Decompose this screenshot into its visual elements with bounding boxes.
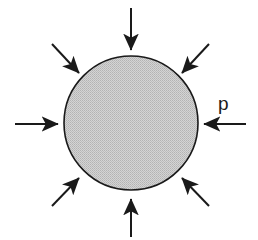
shaded-circle: [64, 56, 198, 190]
pressure-diagram-canvas: p: [0, 0, 258, 240]
pressure-label: p: [218, 93, 229, 114]
pressure-diagram-figure: p: [0, 0, 258, 240]
